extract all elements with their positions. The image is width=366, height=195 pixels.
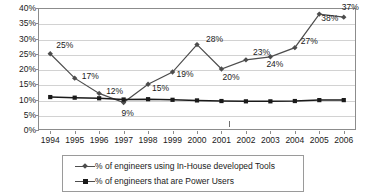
data-point-square-icon bbox=[268, 99, 272, 103]
x-axis-tick-mark bbox=[319, 131, 320, 134]
x-axis-tick-mark bbox=[197, 131, 198, 134]
data-point-square-icon bbox=[48, 95, 52, 99]
y-axis-tick-label: 0% bbox=[2, 126, 36, 135]
chart-legend: % of engineers using In-House developed … bbox=[62, 155, 304, 192]
data-point-square-icon bbox=[170, 98, 174, 102]
y-axis-tick-label: 5% bbox=[2, 111, 36, 120]
data-point-label: 25% bbox=[56, 41, 73, 50]
data-point-square-icon bbox=[244, 99, 248, 103]
x-axis-tick-mark bbox=[270, 131, 271, 134]
data-point-diamond-icon bbox=[243, 57, 248, 62]
data-point-square-icon bbox=[293, 99, 297, 103]
data-point-square-icon bbox=[146, 97, 150, 101]
x-axis-tick-mark bbox=[246, 131, 247, 134]
legend-marker-diamond-icon bbox=[75, 162, 95, 171]
x-axis-tick-mark bbox=[75, 131, 76, 134]
series-line bbox=[50, 14, 344, 102]
data-point-label: 24% bbox=[266, 60, 283, 69]
legend-label-power-users: % of engineers that are Power Users bbox=[95, 177, 234, 186]
x-axis-tick-mark bbox=[148, 131, 149, 134]
axis-tick-artifact bbox=[229, 121, 230, 127]
series-layer bbox=[38, 8, 356, 130]
data-point-square-icon bbox=[122, 97, 126, 101]
data-point-label: 20% bbox=[222, 73, 239, 82]
x-axis-tick-mark bbox=[221, 131, 222, 134]
data-point-label: 17% bbox=[82, 72, 99, 81]
data-point-square-icon bbox=[219, 99, 223, 103]
data-point-square-icon bbox=[342, 98, 346, 102]
data-point-label: 12% bbox=[106, 87, 123, 96]
data-point-label: 9% bbox=[122, 109, 134, 118]
data-point-square-icon bbox=[97, 96, 101, 100]
y-axis-tick-label: 30% bbox=[2, 35, 36, 44]
y-axis-tick-label: 15% bbox=[2, 80, 36, 89]
x-axis-tick-mark bbox=[124, 131, 125, 134]
data-point-diamond-icon bbox=[341, 14, 346, 19]
data-point-square-icon bbox=[73, 96, 77, 100]
x-axis-tick-mark bbox=[99, 131, 100, 134]
x-axis-tick-mark bbox=[295, 131, 296, 134]
data-point-diamond-icon bbox=[96, 91, 101, 96]
data-point-label: 37% bbox=[342, 3, 359, 12]
legend-item-power-users: % of engineers that are Power Users bbox=[75, 174, 303, 189]
y-axis: 0%5%10%15%20%25%30%35%40% bbox=[0, 8, 36, 130]
y-axis-tick-label: 25% bbox=[2, 50, 36, 59]
data-point-label: 23% bbox=[253, 48, 270, 57]
x-axis-tick-mark bbox=[173, 131, 174, 134]
line-chart: 0%5%10%15%20%25%30%35%40% 25%17%12%9%15%… bbox=[0, 0, 366, 195]
data-point-label: 15% bbox=[152, 84, 169, 93]
x-axis-tick-mark bbox=[50, 131, 51, 134]
data-point-label: 19% bbox=[177, 70, 194, 79]
data-point-label: 28% bbox=[206, 35, 223, 44]
legend-item-inhouse-tools: % of engineers using In-House developed … bbox=[75, 159, 303, 174]
legend-marker-square-icon bbox=[75, 177, 95, 186]
x-axis-tick-mark bbox=[344, 131, 345, 134]
data-point-square-icon bbox=[317, 98, 321, 102]
data-point-square-icon bbox=[195, 98, 199, 102]
x-axis: 1994199519961997199819992000200120022003… bbox=[38, 131, 356, 151]
data-point-label: 27% bbox=[301, 37, 318, 46]
x-axis-tick-label: 2006 bbox=[329, 136, 359, 145]
y-axis-tick-label: 20% bbox=[2, 65, 36, 74]
y-axis-tick-label: 10% bbox=[2, 96, 36, 105]
y-axis-tick-label: 40% bbox=[2, 4, 36, 13]
data-point-label: 38% bbox=[321, 14, 338, 23]
legend-label-inhouse-tools: % of engineers using In-House developed … bbox=[95, 162, 275, 171]
y-axis-tick-label: 35% bbox=[2, 19, 36, 28]
